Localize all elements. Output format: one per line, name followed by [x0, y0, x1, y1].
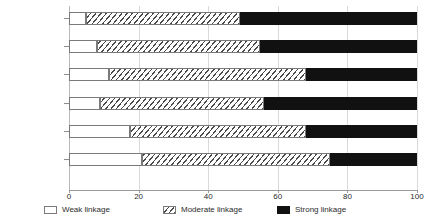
x-tick-label-80: 80	[343, 192, 352, 201]
bar-segment-strong-linkage	[260, 40, 417, 53]
x-tick-mark-40	[208, 190, 209, 193]
axis-baseline	[69, 190, 417, 191]
x-tick-label-100: 100	[410, 192, 423, 201]
bar-segment-moderate-linkage	[130, 125, 306, 138]
bar-row	[69, 12, 417, 25]
bar-segment-weak-linkage	[69, 125, 130, 138]
plot-area	[69, 6, 417, 190]
bar-row	[69, 125, 417, 138]
legend-item-weak[interactable]: Weak linkage	[44, 205, 110, 214]
category-axis: HR planningStaffingCompensationTrainingL…	[0, 0, 62, 218]
x-tick-mark-0	[69, 190, 70, 193]
legend-label: Moderate linkage	[181, 205, 242, 214]
bar-row	[69, 153, 417, 166]
bar-row	[69, 97, 417, 110]
bar-segment-weak-linkage	[69, 153, 142, 166]
stacked-bar-chart: HR planningStaffingCompensationTrainingL…	[0, 0, 426, 218]
chart-legend: Weak linkageModerate linkageStrong linka…	[0, 203, 426, 218]
x-tick-mark-20	[139, 190, 140, 193]
bar-segment-strong-linkage	[306, 125, 417, 138]
gridline-100	[417, 6, 418, 190]
bar-segment-moderate-linkage	[97, 40, 261, 53]
bar-segment-weak-linkage	[69, 40, 97, 53]
legend-label: Strong linkage	[295, 205, 346, 214]
x-tick-mark-80	[347, 190, 348, 193]
legend-item-strong[interactable]: Strong linkage	[277, 205, 346, 214]
x-tick-mark-60	[278, 190, 279, 193]
legend-swatch-strong-icon	[277, 206, 290, 214]
x-tick-mark-100	[417, 190, 418, 193]
bar-segment-moderate-linkage	[109, 68, 306, 81]
x-tick-label-40: 40	[204, 192, 213, 201]
bar-segment-strong-linkage	[264, 97, 417, 110]
bar-segment-moderate-linkage	[86, 12, 239, 25]
bar-segment-weak-linkage	[69, 12, 86, 25]
legend-item-moderate[interactable]: Moderate linkage	[163, 205, 242, 214]
bar-segment-weak-linkage	[69, 97, 100, 110]
x-tick-label-60: 60	[273, 192, 282, 201]
x-tick-label-20: 20	[134, 192, 143, 201]
legend-label: Weak linkage	[62, 205, 110, 214]
bar-segment-weak-linkage	[69, 68, 109, 81]
bar-segment-moderate-linkage	[142, 153, 330, 166]
bar-segment-strong-linkage	[330, 153, 417, 166]
x-tick-label-0: 0	[67, 192, 71, 201]
bar-row	[69, 68, 417, 81]
legend-swatch-moderate-icon	[163, 206, 176, 214]
bar-segment-strong-linkage	[240, 12, 417, 25]
bar-row	[69, 40, 417, 53]
bar-segment-strong-linkage	[306, 68, 417, 81]
bar-segment-moderate-linkage	[100, 97, 264, 110]
legend-swatch-weak-icon	[44, 206, 57, 214]
